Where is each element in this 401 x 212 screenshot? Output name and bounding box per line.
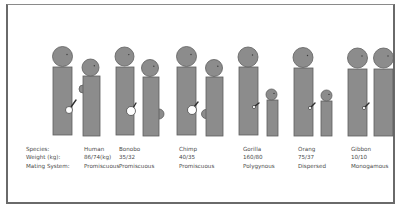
eye-icon (190, 54, 191, 55)
human-male-head (53, 47, 73, 67)
weight-row-label: Weight (kg): (26, 153, 70, 161)
species-mating: Promiscuous (179, 162, 214, 170)
gorilla-male-head (238, 47, 258, 67)
eye-icon (328, 94, 329, 95)
primate-figures (0, 0, 401, 212)
chimp-female-body (206, 77, 223, 136)
chimp-male-head (177, 47, 197, 67)
chimp-female-head (206, 60, 223, 77)
orang-testis-marker (308, 106, 311, 109)
gorilla-male-body (239, 67, 258, 135)
gibbon-male-body (348, 69, 367, 136)
species-weight: 160/80 (243, 153, 275, 161)
gorilla-female-body (267, 100, 278, 136)
species-name: Human (84, 145, 119, 153)
gibbon-female-body (374, 69, 393, 136)
species-mating: Promiscuous (84, 162, 119, 170)
species-orang-labels: Orang 75/37 Dispersed (298, 145, 326, 170)
species-row-label: Species: (26, 145, 70, 153)
human-female-body (83, 76, 100, 136)
species-bonobo-labels: Bonobo 35/32 Promiscuous (119, 145, 154, 170)
species-name: Gibbon (351, 145, 389, 153)
bonobo-female-head (142, 60, 159, 77)
species-name: Orang (298, 145, 326, 153)
orang-female-head (321, 90, 332, 101)
gorilla-female-head (266, 89, 277, 100)
species-weight: 35/32 (119, 153, 154, 161)
species-chimp-labels: Chimp 40/35 Promiscuous (179, 145, 214, 170)
gibbon-female-head (374, 48, 394, 68)
species-weight: 10/10 (351, 153, 389, 161)
species-gorilla-labels: Gorilla 160/80 Polygynous (243, 145, 275, 170)
eye-icon (387, 55, 388, 56)
orang-female-body (321, 101, 332, 136)
chimp-male-body (177, 67, 196, 135)
species-mating: Monogamous (351, 162, 389, 170)
eye-icon (66, 54, 67, 55)
chimp-testis-marker (188, 106, 197, 115)
eye-icon (153, 66, 154, 67)
species-mating: Promiscuous (119, 162, 154, 170)
eye-icon (307, 55, 308, 56)
eye-icon (252, 54, 253, 55)
bonobo-testis-marker (127, 107, 136, 116)
gibbon-male-head (348, 48, 368, 68)
eye-icon (361, 55, 362, 56)
orang-male-body (294, 68, 313, 136)
species-weight: 40/35 (179, 153, 214, 161)
species-weight: 86/74(kg) (84, 153, 119, 161)
human-male-body (53, 67, 72, 135)
human-testis-marker (66, 107, 73, 114)
gibbon-testis-marker (362, 106, 365, 109)
eye-icon (128, 54, 129, 55)
gorilla-testis-marker (252, 105, 255, 108)
eye-icon (94, 65, 95, 66)
species-weight: 75/37 (298, 153, 326, 161)
human-female-head (82, 59, 99, 76)
bonobo-male-body (116, 67, 134, 135)
species-name: Gorilla (243, 145, 275, 153)
bonobo-male-head (115, 47, 134, 66)
row-labels: Species: Weight (kg): Mating System: (26, 145, 70, 170)
eye-icon (273, 93, 274, 94)
species-mating: Polygynous (243, 162, 275, 170)
species-name: Bonobo (119, 145, 154, 153)
species-gibbon-labels: Gibbon 10/10 Monogamous (351, 145, 389, 170)
species-name: Chimp (179, 145, 214, 153)
eye-icon (217, 66, 218, 67)
species-mating: Dispersed (298, 162, 326, 170)
bonobo-female-body (143, 77, 159, 136)
species-human-labels: Human 86/74(kg) Promiscuous (84, 145, 119, 170)
orang-male-head (293, 48, 313, 68)
mating-row-label: Mating System: (26, 162, 70, 170)
